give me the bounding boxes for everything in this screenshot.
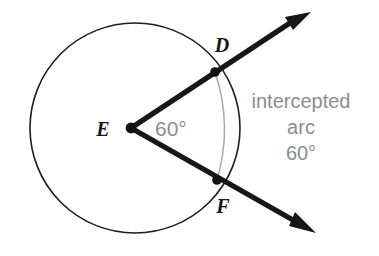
central-angle-diagram: E D F 60° intercepted arc 60° [0, 0, 379, 256]
vertex-point-e [126, 123, 137, 134]
geometry-figure: E D F 60° intercepted arc 60° [0, 0, 379, 256]
point-d-marker [210, 67, 220, 77]
annotation-line-1: intercepted [252, 90, 351, 112]
point-f-marker [212, 175, 222, 185]
label-point-f: F [215, 195, 230, 217]
angle-measure-label: 60° [155, 117, 187, 140]
arrowhead-lower-icon [289, 212, 316, 233]
arrowhead-upper-icon [285, 12, 311, 30]
intercepted-arc [215, 72, 225, 180]
label-point-d: D [214, 34, 229, 56]
annotation-line-3: 60° [286, 142, 316, 164]
annotation-line-2: arc [287, 116, 315, 138]
label-point-e: E [95, 118, 109, 140]
